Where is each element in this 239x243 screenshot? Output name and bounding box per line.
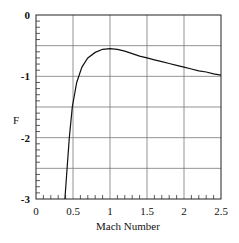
y-axis-label: F <box>13 114 19 126</box>
x-axis-label: Mach Number <box>96 220 160 232</box>
grid-lines <box>36 15 221 199</box>
y-tick-neg2: -2 <box>21 132 31 144</box>
minor-ticks <box>36 21 214 199</box>
x-tick-1-5: 1.5 <box>140 205 154 217</box>
y-tick-neg3: -3 <box>21 193 31 205</box>
data-line <box>65 49 221 199</box>
x-tick-0: 0 <box>33 205 39 217</box>
x-tick-1: 1 <box>107 205 113 217</box>
y-tick-neg1: -1 <box>21 70 30 82</box>
x-tick-0-5: 0.5 <box>66 205 80 217</box>
y-tick-0: 0 <box>25 9 31 21</box>
x-tick-2: 2 <box>181 205 187 217</box>
x-tick-2-5: 2.5 <box>214 205 228 217</box>
chart-figure: 0 -1 -2 -3 0 0.5 1 1.5 2 2.5 F Mach Numb… <box>0 0 239 243</box>
